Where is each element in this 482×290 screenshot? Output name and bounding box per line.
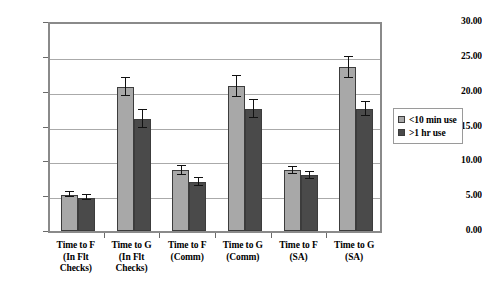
- x-tick-label-line: Time to G: [215, 240, 271, 252]
- error-bar-cap: [344, 56, 353, 57]
- bar: [301, 175, 318, 231]
- x-tick-label: Time to F(SA): [271, 240, 327, 263]
- bar: [284, 170, 301, 231]
- x-tick-label-line: Time to F: [48, 240, 104, 252]
- error-bar-cap: [288, 166, 297, 167]
- error-bar: [348, 57, 349, 78]
- error-bar-cap: [361, 101, 370, 102]
- legend-swatch-dark-icon: [398, 129, 405, 136]
- x-tick-mark: [159, 233, 160, 238]
- bar: [245, 109, 262, 231]
- error-bar: [236, 76, 237, 97]
- gridline: [50, 94, 380, 95]
- error-bar-cap: [82, 194, 91, 195]
- gridline: [50, 163, 380, 164]
- legend-item: >1 hr use: [398, 126, 457, 139]
- x-tick-label-line: Checks): [104, 263, 160, 275]
- error-bar-cap: [82, 199, 91, 200]
- error-bar-cap: [138, 109, 147, 110]
- bar: [61, 195, 78, 231]
- legend-swatch-light-icon: [398, 116, 405, 123]
- error-bar-cap: [288, 173, 297, 174]
- x-tick-label: Time to G(In FltChecks): [104, 240, 160, 275]
- error-bar: [142, 110, 143, 128]
- x-tick-label-line: (In Flt: [104, 252, 160, 264]
- error-bar-cap: [249, 99, 258, 100]
- error-bar-cap: [305, 178, 314, 179]
- error-bar-cap: [232, 96, 241, 97]
- x-tick-label-line: Checks): [48, 263, 104, 275]
- error-bar-cap: [249, 117, 258, 118]
- y-tick-label: 0.00: [440, 226, 482, 236]
- bar: [172, 170, 189, 231]
- bar-chart: 30.0025.0020.0015.0010.005.000.00 Time t…: [0, 0, 482, 290]
- x-tick-label-line: (SA): [326, 252, 382, 264]
- error-bar: [125, 78, 126, 96]
- y-tick-label: 10.00: [440, 156, 482, 166]
- x-tick-label-line: Time to G: [104, 240, 160, 252]
- x-tick-label-line: (In Flt: [48, 252, 104, 264]
- x-tick-label: Time to F(Comm): [159, 240, 215, 263]
- x-tick-mark: [326, 233, 327, 238]
- bar: [78, 198, 95, 231]
- error-bar-cap: [65, 196, 74, 197]
- error-bar-cap: [194, 185, 203, 186]
- gridline: [50, 129, 380, 130]
- x-tick-label-line: Time to G: [326, 240, 382, 252]
- x-tick-mark: [271, 233, 272, 238]
- legend-item: <10 min use: [398, 113, 457, 126]
- y-tick-label: 20.00: [440, 87, 482, 97]
- x-tick-label-line: (SA): [271, 252, 327, 264]
- error-bar-cap: [361, 115, 370, 116]
- x-tick-label-line: (Comm): [159, 252, 215, 264]
- error-bar-cap: [305, 171, 314, 172]
- bar: [356, 109, 373, 231]
- plot-area: [48, 22, 382, 233]
- x-tick-label-line: (Comm): [215, 252, 271, 264]
- error-bar-cap: [232, 75, 241, 76]
- x-tick-label-line: Time to F: [159, 240, 215, 252]
- error-bar: [365, 102, 366, 116]
- error-bar: [253, 100, 254, 118]
- y-tick-label: 5.00: [440, 191, 482, 201]
- x-tick-label: Time to F(In FltChecks): [48, 240, 104, 275]
- legend-label: >1 hr use: [409, 128, 446, 138]
- bar: [339, 67, 356, 231]
- bar: [134, 119, 151, 231]
- y-tick-label: 30.00: [440, 17, 482, 27]
- y-tick-label: 25.00: [440, 52, 482, 62]
- gridline: [50, 59, 380, 60]
- bar: [117, 87, 134, 231]
- error-bar-cap: [138, 127, 147, 128]
- chart-legend: <10 min use >1 hr use: [393, 108, 463, 144]
- error-bar-cap: [65, 191, 74, 192]
- error-bar-cap: [194, 177, 203, 178]
- error-bar-cap: [177, 174, 186, 175]
- bar: [189, 182, 206, 231]
- gridline: [50, 198, 380, 199]
- x-tick-label: Time to G(Comm): [215, 240, 271, 263]
- bar: [228, 86, 245, 231]
- x-tick-label-line: Time to F: [271, 240, 327, 252]
- legend-label: <10 min use: [409, 115, 457, 125]
- error-bar-cap: [177, 165, 186, 166]
- error-bar-cap: [344, 77, 353, 78]
- error-bar-cap: [121, 77, 130, 78]
- x-tick-mark: [104, 233, 105, 238]
- error-bar-cap: [121, 95, 130, 96]
- x-tick-label: Time to G(SA): [326, 240, 382, 263]
- x-tick-mark: [215, 233, 216, 238]
